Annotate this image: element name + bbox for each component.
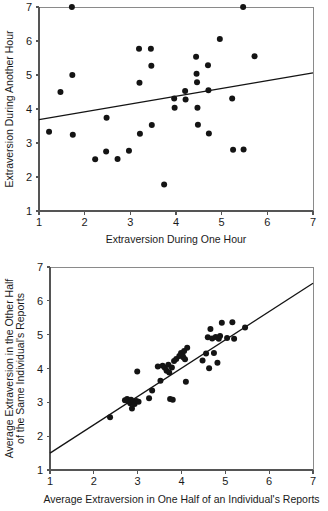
data-point	[107, 414, 113, 420]
data-point	[194, 79, 200, 85]
y-axis-title: Extraversion During Another Hour	[3, 30, 15, 187]
data-point	[92, 156, 98, 162]
x-axis-tick-label: 1	[47, 475, 53, 487]
data-point	[137, 131, 143, 137]
data-point	[103, 149, 109, 155]
data-point	[69, 72, 75, 78]
data-point	[219, 320, 225, 326]
x-axis-tick-label: 4	[173, 216, 179, 228]
x-axis-tick-label: 2	[91, 475, 97, 487]
data-point	[194, 71, 200, 77]
y-axis-tick-label: 6	[26, 35, 32, 47]
data-point	[149, 387, 155, 393]
data-point	[104, 115, 110, 121]
x-axis-title: Average Extraversion in One Half of an I…	[43, 493, 319, 505]
y-axis-tick-label: 5	[37, 329, 43, 341]
x-axis-tick-label: 6	[266, 475, 272, 487]
data-point	[229, 95, 235, 101]
data-point	[231, 336, 237, 342]
data-point	[136, 399, 142, 405]
data-point	[136, 80, 142, 86]
data-point	[200, 357, 206, 363]
scatter-plot-top-canvas: 12345671234567Extraversion During One Ho…	[0, 0, 328, 250]
data-point	[207, 326, 213, 332]
data-point	[172, 105, 178, 111]
y-axis-tick-label: 1	[26, 205, 32, 217]
data-point	[166, 370, 172, 376]
y-axis-tick-label: 3	[26, 137, 32, 149]
data-point	[203, 351, 209, 357]
data-point	[136, 46, 142, 52]
data-point	[205, 87, 211, 93]
data-point	[146, 395, 152, 401]
y-axis-tick-label: 4	[37, 363, 43, 375]
y-axis-tick-label: 4	[26, 103, 32, 115]
data-point	[241, 146, 247, 152]
data-point	[157, 378, 163, 384]
data-point	[206, 130, 212, 136]
x-axis-tick-label: 4	[178, 475, 184, 487]
regression-line	[50, 283, 313, 453]
x-axis-tick-label: 7	[310, 475, 316, 487]
scatter-plot-bottom-canvas: 12345671234567Average Extraversion in On…	[0, 255, 328, 511]
data-point	[193, 54, 199, 60]
scatter-plot-top: 12345671234567Extraversion During One Ho…	[0, 0, 328, 250]
y-axis-tick-label: 2	[26, 171, 32, 183]
data-point	[211, 350, 217, 356]
x-axis-tick-label: 5	[219, 216, 225, 228]
y-axis-title: of the Same Individual's Reports	[14, 293, 26, 444]
y-axis-tick-label: 6	[37, 295, 43, 307]
data-point	[183, 96, 189, 102]
data-point	[229, 319, 235, 325]
data-point	[214, 360, 220, 366]
data-point	[194, 105, 200, 111]
x-axis-tick-label: 6	[264, 216, 270, 228]
data-point	[115, 156, 121, 162]
x-axis-tick-label: 2	[82, 216, 88, 228]
data-point	[182, 356, 188, 362]
data-point	[57, 89, 63, 95]
y-axis-tick-label: 3	[37, 396, 43, 408]
y-axis-tick-label: 7	[37, 261, 43, 273]
data-point	[205, 62, 211, 68]
data-point	[149, 122, 155, 128]
data-point	[217, 333, 223, 339]
data-point	[182, 88, 188, 94]
x-axis-tick-label: 1	[36, 216, 42, 228]
data-point	[170, 397, 176, 403]
scatter-plot-bottom: 12345671234567Average Extraversion in On…	[0, 255, 328, 511]
data-point	[148, 63, 154, 69]
data-point	[195, 122, 201, 128]
data-point	[252, 53, 258, 59]
data-point	[217, 36, 223, 42]
x-axis-tick-label: 3	[127, 216, 133, 228]
data-point	[224, 335, 230, 341]
data-point	[126, 148, 132, 154]
data-point	[70, 132, 76, 138]
data-point	[161, 181, 167, 187]
data-point	[171, 95, 177, 101]
y-axis-tick-label: 7	[26, 1, 32, 13]
data-point	[240, 4, 246, 10]
data-point	[169, 364, 175, 370]
data-point	[184, 345, 190, 351]
y-axis-tick-label: 2	[37, 430, 43, 442]
x-axis-tick-label: 7	[310, 216, 316, 228]
data-point	[230, 147, 236, 153]
data-point	[46, 129, 52, 135]
data-point	[69, 4, 75, 10]
y-axis-tick-label: 5	[26, 69, 32, 81]
data-point	[242, 325, 248, 331]
x-axis-tick-label: 5	[222, 475, 228, 487]
y-axis-tick-label: 1	[37, 464, 43, 476]
data-point	[206, 365, 212, 371]
data-point	[183, 379, 189, 385]
x-axis-tick-label: 3	[135, 475, 141, 487]
data-point	[134, 369, 140, 375]
data-point	[148, 46, 154, 52]
x-axis-title: Extraversion During One Hour	[106, 233, 247, 245]
